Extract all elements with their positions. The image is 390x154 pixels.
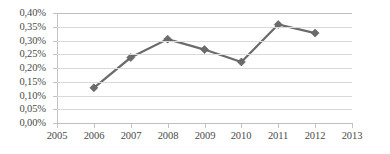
- x-axis-tick: [352, 124, 353, 128]
- y-axis-tick: [53, 68, 57, 69]
- gridline: [57, 54, 352, 55]
- y-axis-tick: [53, 54, 57, 55]
- series-layer: [0, 0, 390, 154]
- x-axis-tick: [57, 124, 58, 128]
- y-axis-tick: [53, 96, 57, 97]
- x-axis-tick: [205, 124, 206, 128]
- series-line: [94, 25, 315, 88]
- gridline: [57, 68, 352, 69]
- gridline: [57, 82, 352, 83]
- y-axis-tick: [53, 13, 57, 14]
- x-axis-tick: [278, 124, 279, 128]
- line-chart: 0,00%0,05%0,10%0,15%0,20%0,25%0,30%0,35%…: [0, 0, 390, 154]
- y-axis-tick: [53, 109, 57, 110]
- x-axis-tick: [241, 124, 242, 128]
- y-axis-tick: [53, 41, 57, 42]
- x-axis-tick: [168, 124, 169, 128]
- gridline: [57, 41, 352, 42]
- gridline: [57, 13, 352, 14]
- x-axis-tick: [315, 124, 316, 128]
- y-axis-tick: [53, 27, 57, 28]
- gridline: [57, 96, 352, 97]
- x-axis-tick: [94, 124, 95, 128]
- x-axis-tick: [131, 124, 132, 128]
- y-axis-tick: [53, 82, 57, 83]
- data-point-marker: [201, 46, 209, 54]
- gridline: [57, 109, 352, 110]
- data-point-marker: [311, 29, 319, 37]
- gridline: [57, 27, 352, 28]
